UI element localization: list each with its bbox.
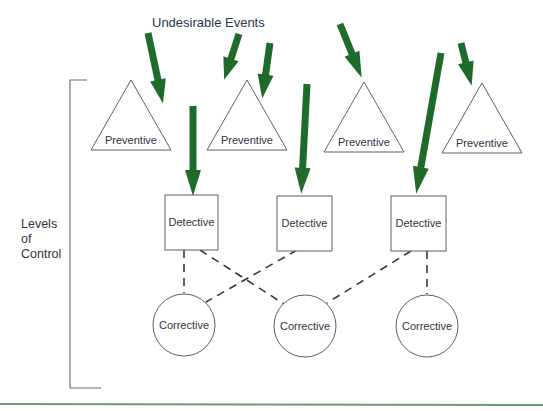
detective-label: Detective <box>396 217 442 229</box>
side-label-line-1: Levels <box>21 217 57 231</box>
side-label-line-3: Control <box>21 247 61 261</box>
detective-2: Detective <box>277 196 332 251</box>
preventive-label: Preventive <box>338 136 390 148</box>
corrective-2: Corrective <box>274 295 336 357</box>
event-arrows <box>140 21 479 196</box>
corrective-label: Corrective <box>402 320 452 332</box>
corrective-3: Corrective <box>396 295 458 357</box>
arrow-icon <box>217 32 247 83</box>
preventive-label: Preventive <box>456 137 508 149</box>
preventive-label: Preventive <box>221 134 273 146</box>
arrow-icon <box>185 106 201 196</box>
corrective-label: Corrective <box>280 320 330 332</box>
preventive-4: Preventive <box>442 83 522 153</box>
arrow-icon <box>293 84 315 195</box>
connection-d2-c1 <box>206 250 297 302</box>
preventive-label: Preventive <box>105 134 157 146</box>
arrow-icon <box>453 41 479 88</box>
side-label-line-2: of <box>21 232 32 246</box>
detective-label: Detective <box>169 216 215 228</box>
connection-d1-c2 <box>200 250 284 304</box>
detective-1: Detective <box>165 195 218 250</box>
controls-diagram: Undesirable Events Levels of Control Pre… <box>0 0 543 411</box>
preventive-2: Preventive <box>207 80 287 150</box>
arrow-icon <box>333 21 370 81</box>
corrective-label: Corrective <box>159 319 209 331</box>
bottom-divider <box>0 404 543 405</box>
diagram-title: Undesirable Events <box>152 15 265 30</box>
levels-bracket <box>70 80 101 388</box>
preventive-3: Preventive <box>324 82 404 152</box>
connection-d3-c2 <box>327 251 411 303</box>
corrective-1: Corrective <box>153 294 215 356</box>
arrow-icon <box>408 52 449 196</box>
arrow-icon <box>140 31 171 105</box>
detective-label: Detective <box>282 217 328 229</box>
arrow-icon <box>254 42 278 100</box>
detective-3: Detective <box>391 196 446 251</box>
